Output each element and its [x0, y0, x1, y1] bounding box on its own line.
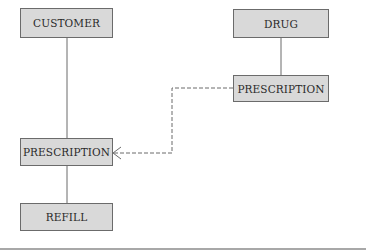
entity-label: PRESCRIPTION: [237, 83, 324, 95]
entity-label: REFILL: [46, 211, 88, 223]
entity-refill: REFILL: [20, 203, 113, 231]
entity-label: DRUG: [264, 18, 298, 30]
entity-drug: DRUG: [233, 9, 329, 38]
prescription-dashed-link: [113, 88, 233, 153]
entity-label: PRESCRIPTION: [23, 146, 110, 158]
er-diagram: CUSTOMER DRUG PRESCRIPTION PRESCRIPTION …: [0, 0, 366, 250]
entity-prescription-right: PRESCRIPTION: [233, 75, 329, 102]
entity-customer: CUSTOMER: [20, 8, 113, 38]
entity-prescription-left: PRESCRIPTION: [20, 138, 113, 166]
entity-label: CUSTOMER: [33, 17, 100, 29]
